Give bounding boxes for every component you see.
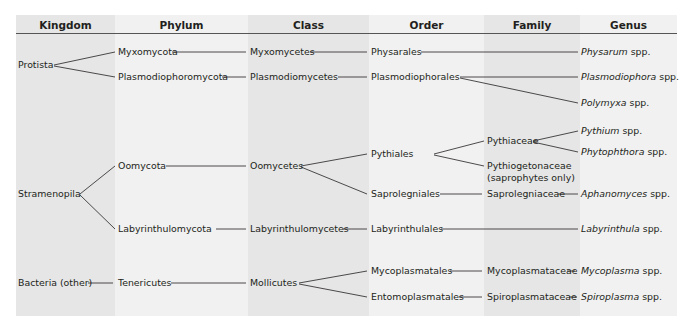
connector <box>54 52 115 65</box>
genus-pythium: Pythium spp. <box>581 125 642 137</box>
genus-labyrinthula: Labyrinthula spp. <box>581 223 663 235</box>
order-saprolegniales: Saprolegniales <box>371 188 440 200</box>
connector <box>80 195 115 229</box>
connector <box>434 155 484 166</box>
genus-plasmodiophora: Plasmodiophora spp. <box>581 71 679 83</box>
phylum-plasmodiophoromycota: Plasmodiophoromycota <box>118 71 228 83</box>
genus-spiroplasma: Spiroplasma spp. <box>581 291 662 303</box>
order-entomoplasmatales: Entomoplasmatales <box>371 291 464 303</box>
connector <box>54 66 115 77</box>
order-physarales: Physarales <box>371 46 422 58</box>
family-note-saprophytes: (saprophytes only) <box>487 172 575 184</box>
phylum-oomycota: Oomycota <box>118 160 166 172</box>
class-myxomycetes: Myxomycetes <box>250 46 315 58</box>
family-mycoplasmataceae: Mycoplasmataceae <box>487 265 577 277</box>
class-mollicutes: Mollicutes <box>250 277 297 289</box>
genus-physarum: Physarum spp. <box>581 46 650 58</box>
genus-aphanomyces: Aphanomyces spp. <box>581 188 670 200</box>
kingdom-protista: Protista <box>18 59 53 71</box>
genus-phytophthora: Phytophthora spp. <box>581 146 667 158</box>
connector <box>299 284 367 297</box>
kingdom-stramenopila: Stramenopila <box>18 188 81 200</box>
family-pythiaceae: Pythiaceae <box>487 135 539 147</box>
family-pythiogetonaceae: Pythiogetonaceae <box>487 160 571 172</box>
genus-mycoplasma: Mycoplasma spp. <box>581 265 662 277</box>
kingdom-bacteria: Bacteria (other) <box>18 277 92 289</box>
order-plasmodiophorales: Plasmodiophorales <box>371 71 460 83</box>
connector <box>301 154 367 166</box>
family-saprolegniaceae: Saprolegniaceae <box>487 188 565 200</box>
phylum-tenericutes: Tenericutes <box>118 277 172 289</box>
family-spiroplasmataceae: Spiroplasmataceae <box>487 291 577 303</box>
connector <box>80 166 115 194</box>
phylum-myxomycota: Myxomycota <box>118 46 178 58</box>
class-plasmodiomycetes: Plasmodiomycetes <box>250 71 338 83</box>
class-oomycetes: Oomycetes <box>250 160 303 172</box>
connector <box>533 131 578 141</box>
connector <box>533 142 578 152</box>
order-pythiales: Pythiales <box>371 148 413 160</box>
connector <box>299 271 367 283</box>
genus-polymyxa: Polymyxa spp. <box>581 97 649 109</box>
order-mycoplasmatales: Mycoplasmatales <box>371 265 452 277</box>
order-labyrinthulales: Labyrinthulales <box>371 223 443 235</box>
class-labyrinthulomycetes: Labyrinthulomycetes <box>250 223 349 235</box>
phylum-labyrinthulomycota: Labyrinthulomycota <box>118 223 212 235</box>
connector <box>460 78 578 103</box>
connector <box>434 141 484 154</box>
connector <box>301 167 367 194</box>
